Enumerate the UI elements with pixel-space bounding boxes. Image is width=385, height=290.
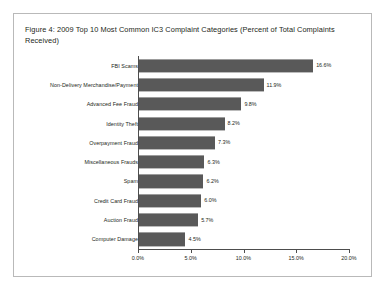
- x-tick-label: 0.0%: [132, 255, 144, 261]
- bar-track: 4.5%: [138, 233, 366, 246]
- y-axis-line: [138, 56, 139, 249]
- bar-track: 6.0%: [138, 194, 366, 207]
- bar-track: 16.6%: [138, 59, 366, 72]
- x-tick-label: 5.0%: [185, 255, 197, 261]
- bar-value-label: 4.5%: [185, 236, 200, 242]
- bar-fill: [138, 194, 201, 207]
- bar-row: Non-Delivery Merchandise/Payment11.9%: [14, 75, 371, 94]
- bar-value-label: 11.9%: [264, 82, 282, 88]
- figure-title: Figure 4: 2009 Top 10 Most Common IC3 Co…: [25, 25, 355, 46]
- bar-category-label: Non-Delivery Merchandise/Payment: [50, 82, 138, 88]
- bar-row: Auction Fraud5.7%: [14, 210, 371, 229]
- bar-fill: [138, 233, 185, 246]
- figure-container: Figure 4: 2009 Top 10 Most Common IC3 Co…: [13, 13, 372, 277]
- bar-track: 8.2%: [138, 117, 366, 130]
- bar-category-label: Spam: [124, 178, 138, 184]
- bar-category-label: Auction Fraud: [104, 217, 138, 223]
- bar-value-label: 6.0%: [201, 198, 216, 204]
- bar-category-label: Overpayment Fraud: [89, 140, 138, 146]
- bar-track: 5.7%: [138, 213, 366, 226]
- bar-row: Miscellaneous Frauds6.3%: [14, 153, 371, 172]
- bar-row: Spam6.2%: [14, 172, 371, 191]
- bar-category-label: Computer Damage: [92, 236, 138, 242]
- bar-fill: [138, 117, 225, 130]
- plot-area: FBI Scams16.6%Non-Delivery Merchandise/P…: [14, 56, 371, 275]
- bar-value-label: 6.3%: [204, 159, 219, 165]
- bar-fill: [138, 213, 198, 226]
- bar-row: Advanced Fee Fraud9.8%: [14, 95, 371, 114]
- bar-value-label: 6.2%: [203, 178, 218, 184]
- bar-track: 6.2%: [138, 175, 366, 188]
- bar-fill: [138, 98, 241, 111]
- bar-track: 6.3%: [138, 156, 366, 169]
- bar-category-label: Miscellaneous Frauds: [84, 159, 138, 165]
- bar-fill: [138, 59, 313, 72]
- x-tick-mark: [349, 249, 350, 253]
- bar-category-label: Credit Card Fraud: [94, 198, 138, 204]
- bar-row: Overpayment Fraud7.3%: [14, 133, 371, 152]
- x-tick-mark: [138, 249, 139, 253]
- bar-track: 7.3%: [138, 136, 366, 149]
- x-tick-label: 10.0%: [236, 255, 251, 261]
- x-tick-mark: [244, 249, 245, 253]
- x-tick-mark: [296, 249, 297, 253]
- bar-row: Identity Theft8.2%: [14, 114, 371, 133]
- bar-category-label: FBI Scams: [111, 63, 138, 69]
- bar-category-label: Identity Theft: [106, 121, 138, 127]
- bar-row: FBI Scams16.6%: [14, 56, 371, 75]
- bar-track: 11.9%: [138, 78, 366, 91]
- bar-row: Credit Card Fraud6.0%: [14, 191, 371, 210]
- bar-value-label: 9.8%: [241, 101, 256, 107]
- x-tick-mark: [191, 249, 192, 253]
- bar-track: 9.8%: [138, 98, 366, 111]
- bar-value-label: 7.3%: [215, 140, 230, 146]
- x-tick-label: 20.0%: [341, 255, 356, 261]
- bar-chart: FBI Scams16.6%Non-Delivery Merchandise/P…: [14, 56, 371, 275]
- bar-category-label: Advanced Fee Fraud: [87, 101, 138, 107]
- bar-row: Computer Damage4.5%: [14, 230, 371, 249]
- x-tick-label: 15.0%: [289, 255, 304, 261]
- bar-value-label: 5.7%: [198, 217, 213, 223]
- bar-value-label: 16.6%: [313, 63, 331, 69]
- bar-fill: [138, 156, 204, 169]
- bar-value-label: 8.2%: [225, 121, 240, 127]
- bar-fill: [138, 175, 203, 188]
- bar-fill: [138, 136, 215, 149]
- bar-fill: [138, 78, 264, 91]
